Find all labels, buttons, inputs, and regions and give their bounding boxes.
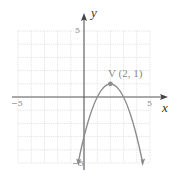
y-tick-5: 5: [75, 27, 80, 35]
y-axis-label: y: [91, 6, 97, 19]
vertex-point: [108, 81, 113, 86]
x-axis-label: x: [162, 101, 168, 114]
curve-arrow-right-icon: [141, 159, 146, 167]
x-tick-5: 5: [147, 100, 152, 108]
y-tick-neg5: −5: [72, 160, 84, 168]
coordinate-plane: [0, 0, 180, 179]
vertex-label: V (2, 1): [108, 68, 142, 79]
x-tick-neg5: −5: [11, 100, 23, 108]
